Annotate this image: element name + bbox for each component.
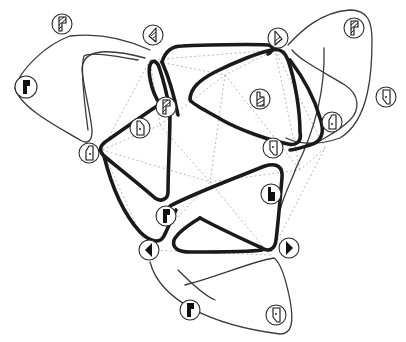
node-hatched-flag-icon[interactable]	[156, 97, 176, 117]
thin-outer-loops	[15, 10, 372, 334]
loop-lower-center	[170, 165, 282, 250]
node-hatched-flag-icon[interactable]	[344, 18, 364, 38]
loop-lower-right	[174, 218, 262, 252]
node-outline-quad-icon[interactable]	[266, 305, 286, 325]
node-hatched-flag-icon[interactable]	[52, 14, 72, 34]
node-solid-flag-icon[interactable]	[15, 76, 37, 98]
node-solid-notch-icon[interactable]	[261, 184, 281, 204]
thick-loops	[101, 45, 323, 252]
node-hatched-notch-icon[interactable]	[250, 89, 270, 109]
node-hatched-triangle-icon[interactable]	[268, 28, 288, 48]
node-hatched-triangle-icon[interactable]	[143, 25, 163, 45]
loop-diagram	[0, 0, 406, 342]
loop-right-side	[290, 60, 322, 150]
diagram-canvas	[0, 0, 406, 342]
node-solid-flag-icon[interactable]	[156, 206, 176, 226]
right-petal-lower	[280, 48, 324, 210]
node-outline-quad-icon[interactable]	[322, 112, 342, 132]
node-solid-triangle-right-icon[interactable]	[279, 238, 299, 258]
node-outline-quad-icon[interactable]	[79, 143, 99, 163]
node-outline-quad-icon[interactable]	[376, 87, 396, 107]
node-solid-flag-icon[interactable]	[180, 300, 200, 320]
node-outline-quad-icon[interactable]	[130, 118, 150, 138]
bottom-petal-inner	[178, 270, 215, 300]
node-solid-triangle-left-icon[interactable]	[139, 240, 159, 260]
loop-upper-right	[190, 49, 300, 144]
node-outline-quad-icon[interactable]	[263, 138, 283, 158]
